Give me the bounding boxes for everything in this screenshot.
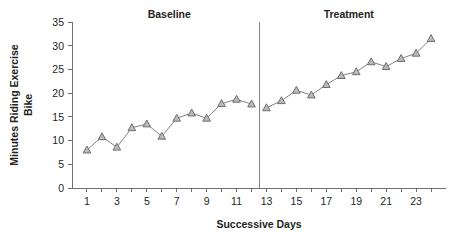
data-point-marker bbox=[352, 68, 360, 75]
x-tick-label: 17 bbox=[320, 195, 332, 207]
data-point-marker bbox=[98, 133, 106, 140]
y-tick-label: 35 bbox=[52, 16, 64, 28]
single-case-design-line-chart: Minutes Riding Exercise Bike 05101520253… bbox=[0, 0, 454, 236]
data-point-marker bbox=[367, 58, 375, 65]
series-treatment bbox=[263, 35, 435, 111]
phase-labels: BaselineTreatment bbox=[148, 8, 375, 20]
x-tick-label: 3 bbox=[114, 195, 120, 207]
y-axis-title: Minutes Riding Exercise Bike bbox=[8, 44, 34, 166]
data-point-marker bbox=[143, 120, 151, 127]
phase-label: Baseline bbox=[148, 8, 191, 20]
y-tick-label: 0 bbox=[58, 182, 64, 194]
x-tick-label: 21 bbox=[380, 195, 392, 207]
data-point-marker bbox=[263, 104, 271, 111]
x-axis-ticks: 1357911131517192123 bbox=[84, 188, 431, 207]
y-tick-label: 10 bbox=[52, 134, 64, 146]
y-axis-title-line-1: Minutes Riding Exercise bbox=[8, 44, 20, 166]
chart-figure: Minutes Riding Exercise Bike 05101520253… bbox=[0, 0, 454, 236]
x-tick-label: 1 bbox=[84, 195, 90, 207]
data-point-marker bbox=[278, 97, 286, 104]
y-tick-label: 20 bbox=[52, 87, 64, 99]
series-baseline bbox=[83, 95, 255, 153]
x-tick-label: 5 bbox=[144, 195, 150, 207]
x-axis-title: Successive Days bbox=[216, 218, 301, 230]
y-tick-label: 30 bbox=[52, 40, 64, 52]
data-point-marker bbox=[323, 81, 331, 88]
x-tick-label: 7 bbox=[174, 195, 180, 207]
x-tick-label: 23 bbox=[410, 195, 422, 207]
data-point-marker bbox=[293, 86, 301, 93]
x-tick-label: 13 bbox=[261, 195, 273, 207]
data-point-marker bbox=[188, 109, 196, 116]
data-line bbox=[266, 39, 431, 108]
data-point-marker bbox=[427, 35, 435, 42]
y-tick-label: 15 bbox=[52, 111, 64, 123]
phase-label: Treatment bbox=[324, 8, 375, 20]
x-tick-label: 15 bbox=[291, 195, 303, 207]
x-tick-label: 9 bbox=[204, 195, 210, 207]
y-axis-ticks: 05101520253035 bbox=[52, 16, 72, 194]
y-tick-label: 25 bbox=[52, 63, 64, 75]
x-tick-label: 19 bbox=[350, 195, 362, 207]
data-line bbox=[87, 99, 252, 150]
data-point-marker bbox=[233, 95, 241, 102]
y-tick-label: 5 bbox=[58, 158, 64, 170]
x-tick-label: 11 bbox=[231, 195, 242, 207]
y-axis-title-line-2: Bike bbox=[22, 94, 34, 116]
